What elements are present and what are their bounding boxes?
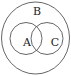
venn-diagram: B A C [0, 0, 71, 76]
set-c-label: C [51, 36, 59, 49]
set-a-label: A [22, 36, 32, 49]
set-b-label: B [33, 5, 41, 18]
